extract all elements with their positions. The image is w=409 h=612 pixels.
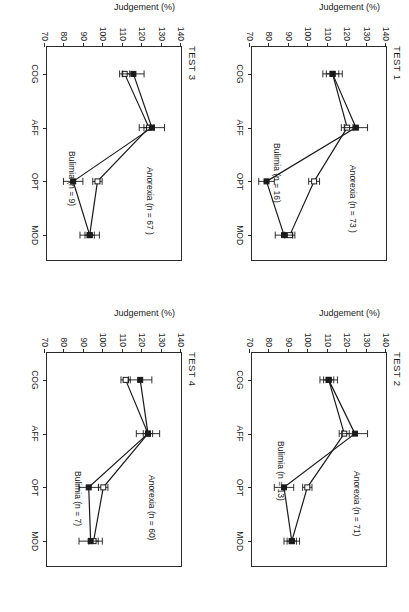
x-tick-label: MOD <box>235 531 245 551</box>
data-point-filled <box>131 71 136 76</box>
series-layer <box>45 47 181 262</box>
y-tick-label: 70 <box>40 32 50 41</box>
annotation-anorexia: Anorexia (n = 67 ) <box>145 167 155 235</box>
data-point-filled <box>86 485 91 490</box>
y-tick-label: 120 <box>137 27 147 41</box>
y-tick-label: 80 <box>59 32 69 41</box>
data-point-open <box>305 485 310 490</box>
series-anorexia <box>285 70 353 238</box>
y-tick-label: 100 <box>98 27 108 41</box>
y-tick-label: 140 <box>176 27 186 41</box>
annotation-bulimia: Bulimia (n = 9) <box>67 151 77 206</box>
series-line <box>284 380 355 541</box>
x-tick-label: AFF <box>30 426 40 442</box>
x-tick-label: OPT <box>30 173 40 190</box>
x-tick-label: MOD <box>30 531 40 551</box>
panel-title: TEST 4 <box>187 352 198 386</box>
y-tick-label: 110 <box>118 27 128 41</box>
series-layer <box>250 47 386 262</box>
data-point-filled <box>87 233 92 238</box>
x-tick-label: AFF <box>235 426 245 442</box>
y-axis-label: Judgement (%) <box>114 308 175 318</box>
annotation-bulimia: Bulimia (n = 7) <box>73 471 83 526</box>
x-tick-label: COG <box>235 370 245 389</box>
panel-title: TEST 2 <box>392 352 403 386</box>
panel-test1: TEST 1 Judgement (%) 1401301201101009080… <box>205 0 409 306</box>
x-tick-label: COG <box>30 370 40 389</box>
panel-title: TEST 3 <box>187 46 198 80</box>
y-tick-label: 100 <box>303 333 313 347</box>
plot-area: 140130120110100908070COGAFFOPTMODAnorexi… <box>251 46 387 261</box>
data-point-filled <box>330 71 335 76</box>
annotation-anorexia: Anorexia (n = 73 ) <box>348 165 358 233</box>
panel-grid: TEST 1 Judgement (%) 1401301201101009080… <box>0 0 409 612</box>
y-tick-label: 140 <box>381 333 391 347</box>
y-tick-label: 100 <box>98 333 108 347</box>
y-tick-label: 130 <box>362 333 372 347</box>
y-tick-label: 140 <box>176 333 186 347</box>
y-tick-label: 110 <box>323 27 333 41</box>
y-tick-label: 120 <box>137 333 147 347</box>
data-point-filled <box>138 377 143 382</box>
x-tick-label: COG <box>235 64 245 83</box>
data-point-filled <box>353 125 358 130</box>
annotation-bulimia: Bulimia (n = 13) <box>276 441 286 501</box>
data-point-filled <box>149 125 154 130</box>
data-point-filled <box>145 431 150 436</box>
y-tick-label: 90 <box>79 32 89 41</box>
annotation-anorexia: Anorexia (n = 60) <box>147 475 157 540</box>
series-layer <box>250 353 386 568</box>
series-line <box>73 74 152 235</box>
series-anorexia <box>85 70 154 238</box>
x-tick-label: AFF <box>235 120 245 136</box>
panel-title: TEST 1 <box>392 46 403 80</box>
annotation-bulimia: Bulimia (n = 16) <box>272 143 282 203</box>
x-tick-label: COG <box>30 64 40 83</box>
y-tick-label: 110 <box>118 333 128 347</box>
x-tick-label: MOD <box>235 225 245 245</box>
data-point-filled <box>88 539 93 544</box>
panel-test4: TEST 4 Judgement (%) 1401301201101009080… <box>0 306 204 612</box>
data-point-filled <box>282 233 287 238</box>
panel-test3: TEST 3 Judgement (%) 1401301201101009080… <box>0 0 204 306</box>
data-point-open <box>312 179 317 184</box>
x-tick-label: OPT <box>235 479 245 496</box>
plot-area: 140130120110100908070COGAFFOPTMODAnorexi… <box>46 352 182 567</box>
y-tick-label: 140 <box>381 27 391 41</box>
series-line <box>292 380 344 541</box>
plot-area: 140130120110100908070COGAFFOPTMODAnorexi… <box>251 352 387 567</box>
series-line <box>290 74 347 235</box>
data-point-filled <box>289 539 294 544</box>
y-tick-label: 70 <box>245 32 255 41</box>
data-point-filled <box>352 431 357 436</box>
plot-area: 140130120110100908070COGAFFOPTMODAnorexi… <box>46 46 182 261</box>
series-line <box>90 74 149 235</box>
y-tick-label: 80 <box>59 338 69 347</box>
y-axis-label: Judgement (%) <box>319 2 380 12</box>
x-tick-label: AFF <box>30 120 40 136</box>
y-tick-label: 80 <box>264 338 274 347</box>
y-tick-label: 130 <box>157 333 167 347</box>
data-point-open <box>95 179 100 184</box>
y-tick-label: 90 <box>79 338 89 347</box>
series-layer <box>45 353 181 568</box>
series-line <box>94 380 148 541</box>
y-axis-label: Judgement (%) <box>114 2 175 12</box>
y-tick-label: 100 <box>303 27 313 41</box>
x-tick-label: OPT <box>235 173 245 190</box>
y-tick-label: 90 <box>284 32 294 41</box>
y-tick-label: 120 <box>342 333 352 347</box>
y-tick-label: 130 <box>362 27 372 41</box>
y-axis-label: Judgement (%) <box>319 308 380 318</box>
data-point-filled <box>326 377 331 382</box>
annotation-anorexia: Anorexia (n = 71) <box>352 471 362 536</box>
x-tick-label: MOD <box>30 225 40 245</box>
y-tick-label: 130 <box>157 27 167 41</box>
y-tick-label: 90 <box>284 338 294 347</box>
y-tick-label: 120 <box>342 27 352 41</box>
y-tick-label: 70 <box>245 338 255 347</box>
y-tick-label: 80 <box>264 32 274 41</box>
data-point-open <box>101 485 106 490</box>
x-tick-label: OPT <box>30 479 40 496</box>
panel-test2: TEST 2 Judgement (%) 1401301201101009080… <box>205 306 409 612</box>
